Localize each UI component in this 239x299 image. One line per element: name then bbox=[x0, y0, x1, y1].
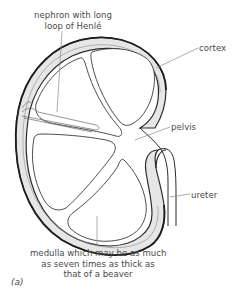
label-nephron-line1: nephron with long bbox=[28, 10, 118, 21]
label-cortex: cortex bbox=[199, 43, 226, 54]
leader-cortex bbox=[156, 48, 198, 68]
label-medulla-line1: medulla which may be as much bbox=[30, 248, 166, 259]
figure-label: (a) bbox=[11, 277, 24, 288]
label-nephron-line2: loop of Henlé bbox=[28, 21, 118, 32]
leader-ureter bbox=[170, 194, 190, 197]
label-nephron: nephron with long loop of Henlé bbox=[28, 10, 118, 31]
leader-pelvis bbox=[135, 127, 170, 140]
label-pelvis: pelvis bbox=[171, 122, 196, 133]
label-medulla-line3: that of a beaver bbox=[30, 269, 166, 280]
medulla-lobes bbox=[32, 49, 154, 242]
label-ureter: ureter bbox=[191, 190, 217, 201]
label-medulla-line2: as seven times as thick as bbox=[30, 259, 166, 270]
label-medulla: medulla which may be as much as seven ti… bbox=[30, 248, 166, 280]
